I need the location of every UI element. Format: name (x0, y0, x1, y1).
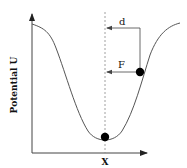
potential-well-diagram: d F Potential U X (0, 0, 187, 168)
equilibrium-ball (101, 133, 109, 141)
displacement-label: d (119, 16, 126, 27)
displaced-ball (136, 68, 144, 76)
potential-curve (32, 23, 180, 140)
y-axis-label: Potential U (9, 56, 19, 113)
x-axis-label: X (102, 157, 109, 167)
force-label: F (118, 59, 125, 70)
